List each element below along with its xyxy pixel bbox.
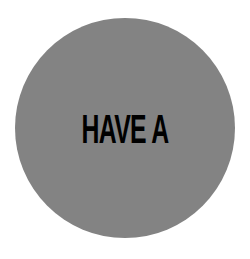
- badge-headline: HAVE A: [57, 112, 193, 146]
- gray-circle-badge: HAVE A: [15, 18, 235, 238]
